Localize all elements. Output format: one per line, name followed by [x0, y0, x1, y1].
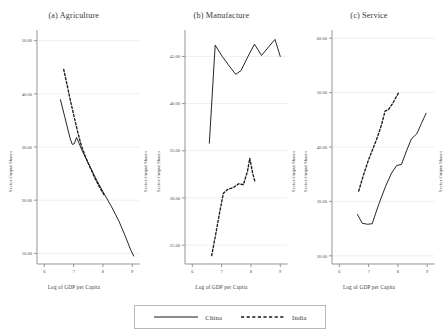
svg-text:40.00: 40.00 — [169, 101, 180, 106]
svg-text:35.00: 35.00 — [169, 148, 180, 153]
x-axis-label-a: Log of GDP per Capita — [0, 284, 148, 290]
svg-text:6: 6 — [43, 269, 46, 274]
panel-row: (a) Agriculture Sector Output Shares Sec… — [0, 0, 443, 296]
legend-swatch-china-solid — [153, 314, 199, 320]
legend-swatch-india-dashed — [240, 314, 286, 320]
svg-text:7: 7 — [72, 269, 75, 274]
svg-text:40.00: 40.00 — [22, 92, 33, 97]
svg-text:20.00: 20.00 — [317, 254, 328, 259]
svg-text:60.00: 60.00 — [317, 36, 328, 41]
svg-text:8: 8 — [102, 269, 105, 274]
legend: China India — [134, 305, 326, 329]
plot-area-manufacture: 25.0030.0035.0040.0045.006789 — [148, 24, 296, 296]
svg-text:30.00: 30.00 — [169, 196, 180, 201]
svg-text:7: 7 — [368, 269, 371, 274]
x-axis-label-c: Log of GDP per Capita — [295, 284, 443, 290]
svg-text:25.00: 25.00 — [169, 243, 180, 248]
svg-text:8: 8 — [397, 269, 400, 274]
svg-text:50.00: 50.00 — [22, 38, 33, 43]
plot-area-service: 20.0030.0040.0050.0060.006789 — [295, 24, 443, 296]
x-axis-label-b: Log of GDP per Capita — [148, 284, 296, 290]
svg-text:45.00: 45.00 — [169, 54, 180, 59]
svg-text:40.00: 40.00 — [317, 145, 328, 150]
svg-text:7: 7 — [220, 269, 223, 274]
panel-service: (c) Service Sector Output Shares Sector … — [295, 0, 443, 296]
svg-text:8: 8 — [249, 269, 252, 274]
svg-text:10.00: 10.00 — [22, 251, 33, 256]
svg-text:30.00: 30.00 — [317, 199, 328, 204]
plot-svg-manufacture: 25.0030.0035.0040.0045.006789 — [148, 24, 296, 296]
svg-text:20.00: 20.00 — [22, 198, 33, 203]
legend-entry-india[interactable]: India — [240, 314, 307, 321]
plot-area-agriculture: 10.0020.0030.0040.0050.006789 — [0, 24, 148, 296]
panel-title-manufacture: (b) Manufacture — [148, 11, 296, 20]
svg-text:30.00: 30.00 — [22, 145, 33, 150]
panel-manufacture: (b) Manufacture Sector Output Shares Sec… — [148, 0, 296, 296]
legend-entry-china[interactable]: China — [153, 314, 222, 321]
figure-container: (a) Agriculture Sector Output Shares Sec… — [0, 0, 443, 336]
panel-agriculture: (a) Agriculture Sector Output Shares Sec… — [0, 0, 148, 296]
svg-text:50.00: 50.00 — [317, 90, 328, 95]
svg-text:9: 9 — [426, 269, 429, 274]
svg-text:9: 9 — [131, 269, 134, 274]
legend-label-india: India — [292, 314, 307, 321]
panel-title-agriculture: (a) Agriculture — [0, 11, 148, 20]
plot-svg-service: 20.0030.0040.0050.0060.006789 — [295, 24, 443, 296]
legend-label-china: China — [205, 314, 222, 321]
svg-text:6: 6 — [191, 269, 194, 274]
svg-text:9: 9 — [279, 269, 282, 274]
panel-title-service: (c) Service — [295, 11, 443, 20]
svg-text:6: 6 — [338, 269, 341, 274]
plot-svg-agriculture: 10.0020.0030.0040.0050.006789 — [0, 24, 148, 296]
